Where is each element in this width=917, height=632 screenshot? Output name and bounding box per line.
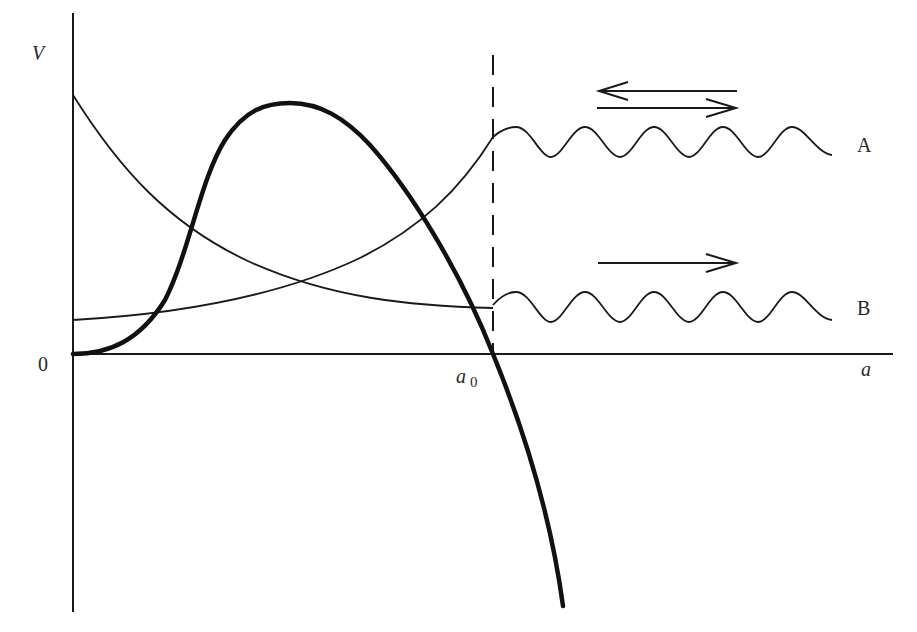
potential-diagram: [0, 0, 917, 632]
right-arrow-icon: [598, 254, 736, 272]
a0-label: a0: [456, 366, 478, 386]
x-axis-label: a: [861, 359, 871, 379]
wave-b: [493, 292, 832, 322]
a0-label-main: a: [456, 365, 466, 387]
right-arrow-icon: [597, 99, 736, 117]
decreasing-potential-curve: [73, 95, 493, 308]
left-arrow-icon: [599, 82, 737, 100]
wave-b-label: B: [857, 298, 870, 318]
wave-a: [493, 127, 832, 157]
y-axis-label: V: [32, 43, 44, 63]
origin-label: 0: [38, 354, 48, 374]
a0-label-sub: 0: [470, 374, 478, 390]
wave-a-label: A: [857, 135, 871, 155]
